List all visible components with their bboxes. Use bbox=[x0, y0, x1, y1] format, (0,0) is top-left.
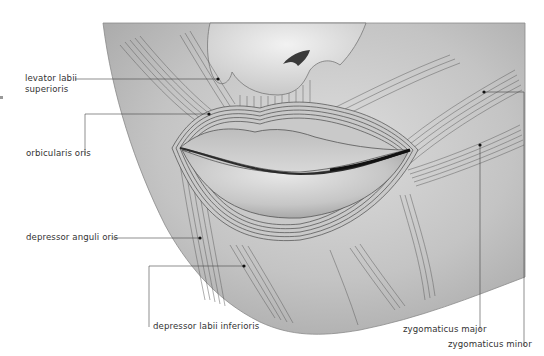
label-levator-line1: levator labii bbox=[25, 73, 77, 84]
label-orbicularis-oris: orbicularis oris bbox=[26, 148, 91, 159]
label-levator-labii-superioris: levator labii superioris bbox=[25, 73, 77, 95]
mouth-muscle-illustration bbox=[0, 0, 544, 356]
label-zygomaticus-major: zygomaticus major bbox=[403, 324, 487, 335]
label-depressor-anguli-oris: depressor anguli oris bbox=[26, 232, 118, 243]
label-levator-line2: superioris bbox=[25, 84, 77, 95]
label-depressor-labii-inferioris: depressor labii inferioris bbox=[153, 321, 259, 332]
label-zygomaticus-minor: zygomaticus minor bbox=[448, 339, 532, 350]
